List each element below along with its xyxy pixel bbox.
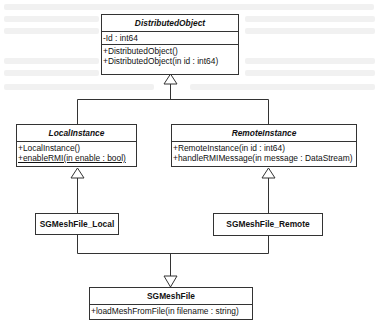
generalization-arrow-icon xyxy=(164,74,177,84)
class-remote-instance: RemoteInstance +RemoteInstance(in id : i… xyxy=(171,124,357,167)
class-sgmeshfile-remote: SGMeshFile_Remote xyxy=(213,213,323,236)
class-name: SGMeshFile_Local xyxy=(36,214,118,234)
operation: +DistributedObject(in id : int64) xyxy=(103,56,237,66)
operations-section: +RemoteInstance(in id : int64) +handleRM… xyxy=(172,142,356,164)
class-name: SGMeshFile xyxy=(90,288,252,305)
class-name: RemoteInstance xyxy=(172,125,356,142)
attributes-section: -Id : int64 xyxy=(102,32,238,45)
generalization-arrow-icon xyxy=(164,276,177,287)
generalization-arrow-icon xyxy=(71,168,84,178)
operations-section: +LocalInstance() +enableRMI(in enable : … xyxy=(17,142,136,164)
operations-section: +DistributedObject() +DistributedObject(… xyxy=(102,45,238,67)
operations-section: +loadMeshFromFile(in filename : string) xyxy=(90,305,252,317)
class-distributed-object: DistributedObject -Id : int64 +Distribut… xyxy=(101,14,239,75)
class-name: DistributedObject xyxy=(102,15,238,32)
class-local-instance: LocalInstance +LocalInstance() +enableRM… xyxy=(16,124,137,167)
static-operation: +enableRMI(in enable : bool) xyxy=(18,153,135,163)
class-sgmeshfile-local: SGMeshFile_Local xyxy=(35,213,119,235)
class-name: SGMeshFile_Remote xyxy=(214,214,322,234)
class-sgmeshfile: SGMeshFile +loadMeshFromFile(in filename… xyxy=(89,287,253,320)
generalization-arrow-icon xyxy=(262,168,275,178)
operation: +LocalInstance() xyxy=(18,143,135,153)
attribute: -Id : int64 xyxy=(103,33,237,43)
operation: +RemoteInstance(in id : int64) xyxy=(173,143,355,153)
operation: +DistributedObject() xyxy=(103,46,237,56)
operation: +handleRMIMessage(in message : DataStrea… xyxy=(173,153,355,163)
class-name: LocalInstance xyxy=(17,125,136,142)
operation: +loadMeshFromFile(in filename : string) xyxy=(91,306,251,316)
